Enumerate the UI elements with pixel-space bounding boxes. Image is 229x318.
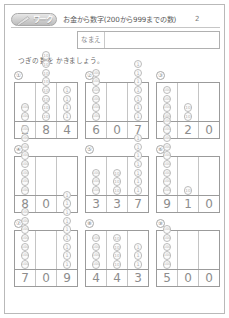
- one-yen-coin-icon: 1: [63, 103, 72, 112]
- hundred-yen-coin-icon: 100: [21, 143, 30, 152]
- hundred-yen-coin-icon: 100: [21, 125, 30, 134]
- ten-yen-coin-icon: 10: [184, 103, 193, 112]
- answer-digit[interactable]: 9: [56, 270, 77, 286]
- problem-item: ⑤1001001001010101111111337: [84, 145, 155, 219]
- one-yen-coin-icon: 1: [134, 86, 143, 95]
- answer-digit[interactable]: 3: [86, 196, 106, 212]
- ten-yen-coin-icon: 10: [42, 86, 51, 95]
- hundred-yen-coin-icon: 100: [21, 169, 30, 178]
- answer-digit[interactable]: 0: [198, 270, 219, 286]
- answer-digit[interactable]: 7: [127, 196, 148, 212]
- coin-box: 1001001001010101111111: [85, 156, 149, 196]
- hundred-yen-coin-icon: 100: [92, 112, 101, 121]
- coin-column-hundred-yen: 100100100100100100: [86, 83, 106, 121]
- ten-yen-coin-icon: 10: [42, 103, 51, 112]
- header-divider: [11, 27, 220, 28]
- coin-column-one-yen: 1111111: [127, 157, 148, 195]
- coin-box: 100100100100100100100100: [14, 156, 78, 196]
- hundred-yen-coin-icon: 100: [92, 169, 101, 178]
- answer-digit[interactable]: 0: [198, 122, 219, 138]
- coin-column-hundred-yen: 100100100100: [157, 83, 177, 121]
- answer-digit[interactable]: 0: [35, 270, 56, 286]
- answer-box[interactable]: 443: [85, 270, 149, 287]
- coin-column-hundred-yen: 100100100100100100100: [15, 231, 35, 269]
- answer-digit[interactable]: 1: [177, 196, 198, 212]
- coin-column-hundred-yen: 100100100100: [86, 231, 106, 269]
- one-yen-coin-icon: 1: [134, 95, 143, 104]
- hundred-yen-coin-icon: 100: [21, 186, 30, 195]
- problem-item: ⑥10010010010010010010010010010910: [155, 145, 226, 219]
- one-yen-coin-icon: 1: [134, 103, 143, 112]
- answer-digit[interactable]: 2: [177, 122, 198, 138]
- problem-grid: ①10010010101010101010101111284②100100100…: [13, 71, 226, 293]
- problem-number: ⑧: [85, 219, 94, 228]
- hundred-yen-coin-icon: 100: [92, 103, 101, 112]
- answer-box[interactable]: 337: [85, 196, 149, 213]
- ten-yen-coin-icon: 10: [113, 186, 122, 195]
- hundred-yen-coin-icon: 100: [21, 160, 30, 169]
- ten-yen-coin-icon: 10: [113, 251, 122, 260]
- answer-digit[interactable]: 4: [56, 122, 77, 138]
- answer-digit[interactable]: 0: [198, 196, 219, 212]
- ten-yen-coin-icon: 10: [113, 169, 122, 178]
- coin-column-ten-yen: 1010: [177, 83, 198, 121]
- worksheet-header: ワーク お金から数字(200から999までの数) 2: [11, 13, 220, 28]
- one-yen-coin-icon: 1: [63, 251, 72, 260]
- answer-box[interactable]: 910: [156, 196, 220, 213]
- one-yen-coin-icon: 1: [63, 260, 72, 269]
- hundred-yen-coin-icon: 100: [21, 217, 30, 226]
- problem-item: ⑧10010010010010101010111443: [84, 219, 155, 293]
- problem-number: ①: [14, 71, 23, 80]
- hundred-yen-coin-icon: 100: [92, 243, 101, 252]
- coin-column-hundred-yen: 100100100100100100100100100: [157, 157, 177, 195]
- hundred-yen-coin-icon: 100: [163, 234, 172, 243]
- coin-column-ten-yen: 1010101010101010: [35, 83, 56, 121]
- answer-digit[interactable]: 0: [106, 122, 127, 138]
- hundred-yen-coin-icon: 100: [21, 251, 30, 260]
- coin-column-hundred-yen: 100100100100100100100100: [15, 157, 35, 195]
- work-badge: ワーク: [11, 13, 57, 26]
- hundred-yen-coin-icon: 100: [21, 112, 30, 121]
- hundred-yen-coin-icon: 100: [92, 69, 101, 78]
- ten-yen-coin-icon: 10: [42, 60, 51, 69]
- name-field[interactable]: なまえ: [77, 31, 220, 49]
- hundred-yen-coin-icon: 100: [92, 95, 101, 104]
- ten-yen-coin-icon: 10: [184, 112, 193, 121]
- answer-digit[interactable]: 0: [177, 270, 198, 286]
- answer-digit[interactable]: 8: [35, 122, 56, 138]
- hundred-yen-coin-icon: 100: [92, 251, 101, 260]
- coin-box: 1001001001001010: [156, 82, 220, 122]
- ten-yen-coin-icon: 10: [113, 243, 122, 252]
- hundred-yen-coin-icon: 100: [163, 243, 172, 252]
- answer-digit[interactable]: 4: [86, 270, 106, 286]
- hundred-yen-coin-icon: 100: [163, 260, 172, 269]
- answer-digit[interactable]: 3: [106, 196, 127, 212]
- hundred-yen-coin-icon: 100: [163, 86, 172, 95]
- hundred-yen-coin-icon: 100: [21, 151, 30, 160]
- coin-column-ten-yen: [177, 231, 198, 269]
- hundred-yen-coin-icon: 100: [21, 260, 30, 269]
- ten-yen-coin-icon: 10: [42, 77, 51, 86]
- name-field-label: なまえ: [81, 36, 101, 45]
- answer-digit[interactable]: 9: [157, 196, 177, 212]
- answer-digit[interactable]: 7: [15, 270, 35, 286]
- hundred-yen-coin-icon: 100: [163, 169, 172, 178]
- answer-digit[interactable]: 5: [157, 270, 177, 286]
- page-title: お金から数字(200から999までの数): [63, 14, 176, 25]
- coin-column-ten-yen: [35, 157, 56, 195]
- answer-digit[interactable]: 6: [86, 122, 106, 138]
- hundred-yen-coin-icon: 100: [163, 225, 172, 234]
- answer-digit[interactable]: 0: [35, 196, 56, 212]
- one-yen-coin-icon: 1: [63, 112, 72, 121]
- answer-box[interactable]: 709: [14, 270, 78, 287]
- answer-digit[interactable]: 4: [106, 270, 127, 286]
- ten-yen-coin-icon: 10: [184, 186, 193, 195]
- worksheet-page: ワーク お金から数字(200から999までの数) 2 なまえ つぎの 数を かき…: [4, 4, 225, 314]
- coin-column-ten-yen: [35, 231, 56, 269]
- hundred-yen-coin-icon: 100: [163, 177, 172, 186]
- answer-digit[interactable]: 3: [127, 270, 148, 286]
- hundred-yen-coin-icon: 100: [163, 103, 172, 112]
- problem-number: ⑤: [85, 145, 94, 154]
- answer-box[interactable]: 500: [156, 270, 220, 287]
- hundred-yen-coin-icon: 100: [163, 186, 172, 195]
